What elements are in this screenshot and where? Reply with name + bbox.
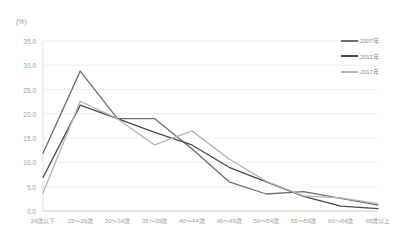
legend-item[interactable]: 2017年 [341, 67, 378, 76]
y-axis-tick-label: 20.0 [10, 110, 36, 117]
x-axis-tick-label: 25～29歳 [68, 216, 93, 225]
legend-item-label: 2017年 [360, 67, 378, 76]
series-line [43, 105, 378, 208]
data-series [43, 71, 378, 208]
x-axis-tick-label: 40～44歳 [179, 216, 204, 225]
gridlines [43, 41, 378, 211]
legend-item-label: 2012年 [360, 52, 378, 61]
legend-swatch-icon [341, 55, 358, 57]
y-axis-tick-label: 35.0 [10, 38, 36, 45]
y-axis-tick-label: 5.0 [10, 183, 36, 190]
x-axis-tick-label: 35～39歳 [142, 216, 167, 225]
y-axis-tick-label: 25.0 [10, 86, 36, 93]
legend-item[interactable]: 2007年 [341, 36, 378, 45]
x-axis-tick-label: 65歳以上 [366, 216, 391, 225]
y-axis-tick-label: 15.0 [10, 135, 36, 142]
legend-item[interactable]: 2012年 [341, 52, 378, 61]
series-line [43, 101, 378, 203]
legend-item-label: 2007年 [360, 36, 378, 45]
x-axis-tick-label: 60～64歳 [328, 216, 353, 225]
legend-swatch-icon [341, 40, 358, 42]
legend: 2007年2012年2017年 [341, 36, 378, 76]
y-axis-tick-label: 30.0 [10, 62, 36, 69]
y-axis-tick-label: 10.0 [10, 159, 36, 166]
legend-swatch-icon [341, 71, 358, 73]
axis-lines [43, 41, 378, 211]
x-axis-tick-label: 24歳以下 [31, 216, 56, 225]
line-chart: (%) 0.05.010.015.020.025.030.035.0 24歳以下… [0, 0, 395, 239]
x-axis-tick-label: 50～54歳 [254, 216, 279, 225]
plot-area [0, 0, 395, 239]
x-axis-tick-label: 45～49歳 [216, 216, 241, 225]
x-axis-tick-label: 30～34歳 [105, 216, 130, 225]
x-axis-tick-label: 55～59歳 [291, 216, 316, 225]
y-axis-tick-label: 0.0 [10, 208, 36, 215]
